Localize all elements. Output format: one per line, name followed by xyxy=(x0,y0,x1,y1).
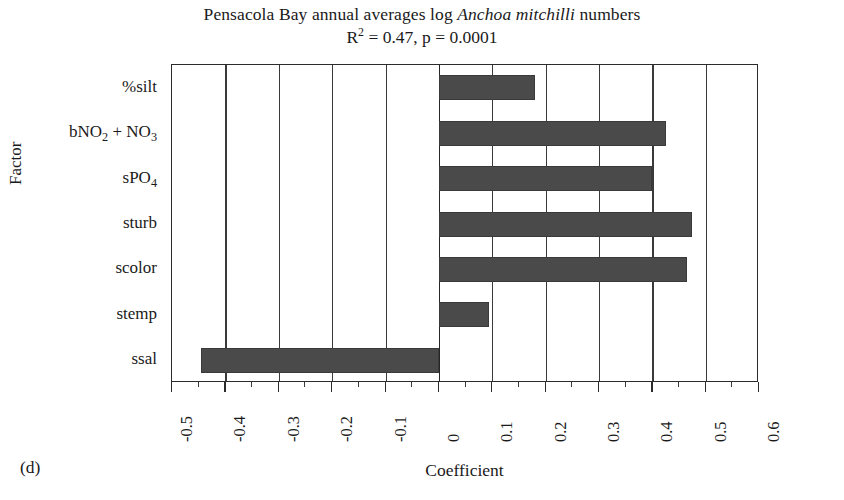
chart-title-suffix: numbers xyxy=(575,4,640,24)
bar xyxy=(439,75,535,100)
bar xyxy=(439,212,693,237)
x-tick-minor xyxy=(518,382,519,387)
y-axis-label: stemp xyxy=(116,304,157,324)
chart-title-species: Anchoa mitchilli xyxy=(457,4,575,24)
x-tick-minor xyxy=(411,382,412,387)
plot-area xyxy=(171,64,758,382)
bar xyxy=(439,166,653,191)
x-tick-label: 0.5 xyxy=(711,421,731,442)
x-tick-label: 0.6 xyxy=(764,421,784,442)
x-tick-minor xyxy=(304,382,305,387)
x-tick-minor xyxy=(731,382,732,387)
x-tick-label: -0.1 xyxy=(391,416,411,442)
x-tick-label: -0.4 xyxy=(230,416,250,442)
x-tick-major xyxy=(598,382,599,392)
x-axis-title: Coefficient xyxy=(171,460,758,481)
x-tick-major xyxy=(278,382,279,392)
x-tick-major xyxy=(545,382,546,392)
bar xyxy=(439,121,666,146)
x-tick-label: -0.2 xyxy=(337,416,357,442)
x-tick-major xyxy=(651,382,652,392)
chart-title-block: Pensacola Bay annual averages log Anchoa… xyxy=(0,4,844,49)
x-axis-tick-labels: -0.5-0.4-0.3-0.2-0.100.10.20.30.40.50.6 xyxy=(171,394,758,452)
x-tick-label: 0.3 xyxy=(604,421,624,442)
y-axis-label: ssal xyxy=(132,349,158,369)
x-tick-major xyxy=(491,382,492,392)
panel-label: (d) xyxy=(20,457,40,478)
y-axis-label: scolor xyxy=(115,258,157,278)
bar xyxy=(201,348,439,373)
x-tick-major xyxy=(331,382,332,392)
subtitle-r: R xyxy=(346,27,358,47)
x-tick-major xyxy=(171,382,172,392)
x-tick-major xyxy=(224,382,225,392)
x-tick-minor xyxy=(625,382,626,387)
x-tick-label: 0.2 xyxy=(551,421,571,442)
x-tick-minor xyxy=(251,382,252,387)
x-tick-major xyxy=(758,382,759,392)
x-tick-label: -0.5 xyxy=(177,416,197,442)
y-axis-label: sturb xyxy=(123,213,157,233)
chart-title-prefix: Pensacola Bay annual averages log xyxy=(204,4,458,24)
x-tick-major xyxy=(438,382,439,392)
x-tick-label: 0.4 xyxy=(657,421,677,442)
bar xyxy=(439,302,490,327)
y-axis-label: %silt xyxy=(122,77,157,97)
bar xyxy=(439,257,687,282)
x-tick-label: -0.3 xyxy=(284,416,304,442)
x-tick-minor xyxy=(465,382,466,387)
subtitle-rest: = 0.47, p = 0.0001 xyxy=(364,27,498,47)
x-tick-major xyxy=(385,382,386,392)
x-tick-minor xyxy=(198,382,199,387)
chart-title: Pensacola Bay annual averages log Anchoa… xyxy=(0,4,844,26)
x-tick-minor xyxy=(571,382,572,387)
x-tick-minor xyxy=(678,382,679,387)
x-tick-label: 0.1 xyxy=(497,421,517,442)
x-tick-major xyxy=(705,382,706,392)
x-tick-minor xyxy=(358,382,359,387)
chart-subtitle: R2 = 0.47, p = 0.0001 xyxy=(0,27,844,49)
bars-layer xyxy=(172,65,757,381)
y-axis-category-labels: %siltbNO2 + NO3sPO4sturbscolorstempssal xyxy=(0,64,165,382)
y-axis-label: bNO2 + NO3 xyxy=(69,122,157,142)
figure-panel-d: Pensacola Bay annual averages log Anchoa… xyxy=(0,0,844,500)
y-axis-label: sPO4 xyxy=(123,168,157,188)
x-tick-label: 0 xyxy=(444,434,464,442)
